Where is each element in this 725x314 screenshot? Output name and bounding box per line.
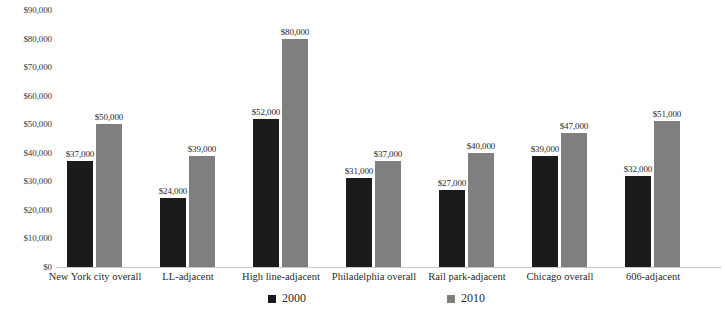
bar-2000: $52,000: [253, 119, 279, 267]
bar-group: $37,000$50,000: [64, 7, 126, 267]
bar-2000: $39,000: [532, 156, 558, 267]
y-axis-tick: $20,000: [0, 206, 52, 215]
bar-group: $39,000$47,000: [529, 7, 591, 267]
bar-value-label: $31,000: [345, 167, 374, 176]
bar-2000: $24,000: [160, 198, 186, 267]
bar-value-label: $39,000: [531, 145, 560, 154]
bar-2010: $39,000: [189, 156, 215, 267]
bar-2000: $27,000: [439, 190, 465, 267]
legend-item-2010[interactable]: 2010: [447, 292, 485, 305]
bar-2010: $40,000: [468, 153, 494, 267]
legend-swatch-icon: [447, 295, 455, 303]
legend-item-2000[interactable]: 2000: [268, 292, 306, 305]
y-axis-tick: $10,000: [0, 234, 52, 243]
bar-2010: $37,000: [375, 161, 401, 267]
bar-chart: $90,000$80,000$70,000$60,000$50,000$40,0…: [0, 0, 725, 314]
bar-2010: $47,000: [561, 133, 587, 267]
bar-2010: $80,000: [282, 39, 308, 267]
y-axis-tick: $40,000: [0, 149, 52, 158]
bar-group: $27,000$40,000: [436, 7, 498, 267]
legend-swatch-icon: [268, 295, 276, 303]
bar-2000: $31,000: [346, 178, 372, 267]
bar-group: $31,000$37,000: [343, 7, 405, 267]
y-axis-tick: $70,000: [0, 63, 52, 72]
bar-value-label: $47,000: [560, 122, 589, 131]
bar-2000: $32,000: [625, 176, 651, 267]
bar-value-label: $37,000: [374, 150, 403, 159]
axis-baseline: [56, 267, 721, 268]
bar-2000: $37,000: [67, 161, 93, 267]
y-axis-tick: $80,000: [0, 35, 52, 44]
y-axis-tick: $50,000: [0, 120, 52, 129]
bar-2010: $50,000: [96, 124, 122, 267]
bar-value-label: $27,000: [438, 179, 467, 188]
bar-group: $24,000$39,000: [157, 7, 219, 267]
bar-group: $32,000$51,000: [622, 7, 684, 267]
bar-value-label: $24,000: [159, 187, 188, 196]
bar-value-label: $39,000: [188, 145, 217, 154]
bar-value-label: $37,000: [66, 150, 95, 159]
y-axis-tick: $60,000: [0, 92, 52, 101]
bar-value-label: $51,000: [653, 110, 682, 119]
bar-value-label: $40,000: [467, 142, 496, 151]
y-axis-tick: $30,000: [0, 177, 52, 186]
plot-area: $37,000$50,000$24,000$39,000$52,000$80,0…: [56, 0, 725, 268]
legend-label: 2010: [461, 292, 485, 305]
y-axis: $90,000$80,000$70,000$60,000$50,000$40,0…: [0, 0, 56, 275]
legend-label: 2000: [282, 292, 306, 305]
bar-value-label: $80,000: [281, 28, 310, 37]
x-axis-label: 606-adjacent: [593, 270, 713, 283]
bar-value-label: $32,000: [624, 165, 653, 174]
y-axis-tick: $90,000: [0, 6, 52, 15]
bar-2010: $51,000: [654, 121, 680, 267]
bar-value-label: $52,000: [252, 108, 281, 117]
chart-legend: 20002010: [0, 292, 725, 312]
bar-value-label: $50,000: [95, 113, 124, 122]
x-axis-labels: New York city overallLL-adjacentHigh lin…: [56, 270, 725, 286]
bar-group: $52,000$80,000: [250, 7, 312, 267]
